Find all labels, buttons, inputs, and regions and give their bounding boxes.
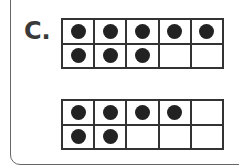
ten-frame-cell — [62, 100, 94, 125]
ten-frame-cell — [94, 44, 126, 69]
ten-frame-cell — [62, 125, 94, 150]
ten-frame-cell — [94, 125, 126, 150]
ten-frame-cell — [126, 100, 158, 125]
counter-dot-icon — [167, 105, 182, 120]
counter-dot-icon — [103, 24, 118, 39]
counter-dot-icon — [135, 48, 150, 63]
counter-dot-icon — [103, 105, 118, 120]
counter-dot-icon — [71, 105, 86, 120]
counter-dot-icon — [167, 24, 182, 39]
counter-dot-icon — [71, 129, 86, 144]
ten-frame-cell — [62, 44, 94, 69]
counter-dot-icon — [103, 129, 118, 144]
ten-frame-cell — [159, 19, 191, 44]
ten-frame-cell — [191, 125, 223, 150]
question-label: C. — [24, 17, 51, 45]
ten-frame-cell — [159, 100, 191, 125]
ten-frame-cell — [126, 19, 158, 44]
ten-frame-1 — [61, 18, 224, 69]
ten-frame-cell — [126, 44, 158, 69]
ten-frame-cell — [191, 44, 223, 69]
ten-frame-cell — [159, 44, 191, 69]
counter-dot-icon — [71, 48, 86, 63]
counter-dot-icon — [135, 24, 150, 39]
counter-dot-icon — [71, 24, 86, 39]
ten-frame-cell — [191, 19, 223, 44]
ten-frame-cell — [159, 125, 191, 150]
counter-dot-icon — [135, 105, 150, 120]
ten-frame-cell — [62, 19, 94, 44]
counter-dot-icon — [199, 24, 214, 39]
ten-frame-2 — [61, 99, 224, 150]
ten-frame-cell — [191, 100, 223, 125]
counter-dot-icon — [103, 48, 118, 63]
ten-frame-cell — [126, 125, 158, 150]
ten-frame-cell — [94, 100, 126, 125]
ten-frame-cell — [94, 19, 126, 44]
